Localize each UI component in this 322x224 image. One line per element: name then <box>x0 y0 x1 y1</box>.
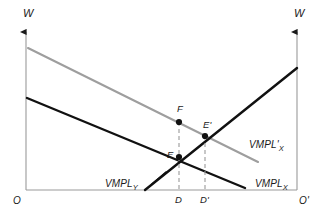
curve-vmpl-y <box>145 68 297 190</box>
tick-label-d-prime: D' <box>200 195 209 205</box>
curve-label-vmpl-x-prime: VMPL'X <box>249 140 284 153</box>
curve-vmpl-x <box>27 98 245 188</box>
right-axis-label: W <box>294 8 304 19</box>
point-F <box>176 119 182 125</box>
left-origin-label: O <box>13 196 21 206</box>
point-E <box>176 154 182 160</box>
point-label-E-prime: E' <box>203 120 211 130</box>
leader-vmpl-y <box>152 172 166 184</box>
curve-label-vmpl-x-sub: X <box>283 183 288 192</box>
point-E-prime <box>202 133 208 139</box>
curve-label-vmpl-x-prime-sub: X <box>279 144 284 153</box>
right-origin-label: O' <box>299 196 309 206</box>
point-label-E: E <box>167 150 173 160</box>
tick-label-d: D <box>175 195 182 205</box>
curve-label-vmpl-x-prime-base: VMPL <box>249 139 277 150</box>
curve-label-vmpl-y-sub: Y <box>133 183 138 192</box>
economics-diagram: W W O O' D D' E E' F VMPLY VMPLX VMPL'X <box>0 0 322 224</box>
curve-label-vmpl-x-base: VMPL <box>255 178 283 189</box>
left-axis-label: W <box>23 8 33 19</box>
curve-label-vmpl-y-base: VMPL <box>105 178 133 189</box>
curve-label-vmpl-x: VMPLX <box>255 179 288 192</box>
curve-label-vmpl-y: VMPLY <box>105 179 138 192</box>
point-label-F: F <box>177 104 183 114</box>
